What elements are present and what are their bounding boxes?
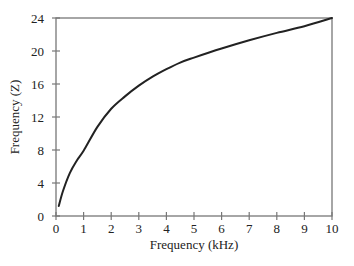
y-tick-label: 0 — [38, 209, 45, 224]
x-tick-label: 1 — [80, 221, 87, 236]
data-curve — [59, 18, 332, 206]
x-tick-label: 8 — [274, 221, 281, 236]
x-axis-label: Frequency (kHz) — [150, 237, 238, 252]
y-tick-label: 20 — [31, 44, 44, 59]
x-tick-label: 2 — [108, 221, 115, 236]
x-tick-label: 7 — [246, 221, 253, 236]
plot-border — [56, 18, 332, 216]
x-tick-label: 0 — [53, 221, 60, 236]
y-axis-label: Frequency (Z) — [7, 80, 22, 155]
x-tick-label: 9 — [301, 221, 308, 236]
plot-frame — [56, 18, 332, 216]
x-tick-label: 3 — [136, 221, 143, 236]
chart: 012345678910 04812162024 Frequency (kHz)… — [0, 0, 354, 266]
y-tick-label: 8 — [38, 143, 45, 158]
y-tick-label: 4 — [38, 176, 45, 191]
y-tick-label: 16 — [31, 77, 45, 92]
x-tick-label: 4 — [163, 221, 170, 236]
x-tick-label: 10 — [326, 221, 339, 236]
x-tick-label: 5 — [191, 221, 198, 236]
x-tick-label: 6 — [218, 221, 225, 236]
y-tick-label: 24 — [31, 11, 45, 26]
y-tick-label: 12 — [31, 110, 44, 125]
